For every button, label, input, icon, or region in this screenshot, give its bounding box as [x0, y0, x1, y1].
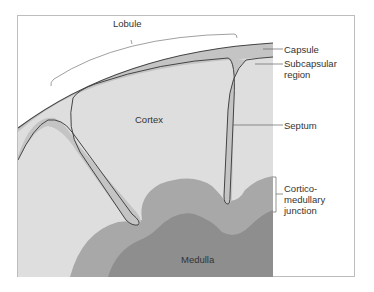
label-lobule: Lobule — [113, 18, 142, 29]
cm-junction-bracket — [273, 177, 283, 212]
label-subcapsular-2: region — [284, 69, 310, 80]
lobule-bracket-tick — [131, 40, 132, 44]
label-cm-junction-1: Cortico- — [284, 183, 317, 194]
label-medulla: Medulla — [181, 254, 214, 265]
label-capsule: Capsule — [284, 44, 319, 55]
label-cm-junction-3: junction — [284, 205, 317, 216]
label-subcapsular-1: Subcapsular — [284, 58, 337, 69]
label-septum: Septum — [284, 120, 317, 131]
label-cm-junction-2: medullary — [284, 194, 325, 205]
label-cortex: Cortex — [135, 114, 163, 125]
